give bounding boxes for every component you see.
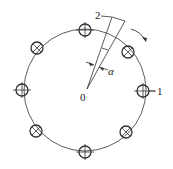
hole-cross-icon	[122, 46, 134, 58]
leader-line-2	[101, 16, 112, 17]
hole-cross-icon	[120, 126, 132, 138]
rotation-arrow-icon	[131, 29, 145, 40]
hole-plus-icon	[76, 144, 94, 160]
hole-plus-icon	[76, 22, 94, 38]
hole-plus-icon	[13, 82, 31, 98]
indexing-diagram: 0 1 2 α	[0, 0, 173, 169]
diagram-canvas: 0 1 2 α	[0, 0, 173, 169]
angle-label: α	[108, 65, 114, 77]
label-2: 2	[95, 9, 101, 21]
probe-wedge	[87, 17, 125, 89]
label-1: 1	[157, 85, 163, 97]
center-label: 0	[80, 91, 86, 103]
